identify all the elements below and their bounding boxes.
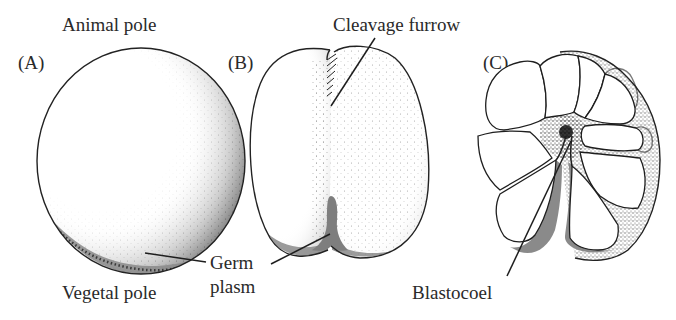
vegetal-pole-label: Vegetal pole <box>62 282 156 303</box>
panel-label-a: (A) <box>18 52 44 74</box>
blastocoel-label: Blastocoel <box>412 282 492 303</box>
germ-plasm-label-line1: Germ <box>210 252 253 273</box>
panel-label-b: (B) <box>228 52 253 74</box>
cleavage-furrow-label: Cleavage furrow <box>333 14 460 35</box>
panel-c-multicellular-embryo: (C) <box>478 51 660 260</box>
cell-c2 <box>540 54 580 118</box>
embryo-cleavage-diagram: (A) Animal pole Vegetal pole (B) Cleavag… <box>0 0 676 320</box>
germ-plasm-label-line2: plasm <box>210 276 256 297</box>
animal-pole-label: Animal pole <box>62 14 156 35</box>
cell-c5 <box>581 125 643 151</box>
panel-b-first-cleavage: (B) Cleavage furrow <box>228 14 460 270</box>
